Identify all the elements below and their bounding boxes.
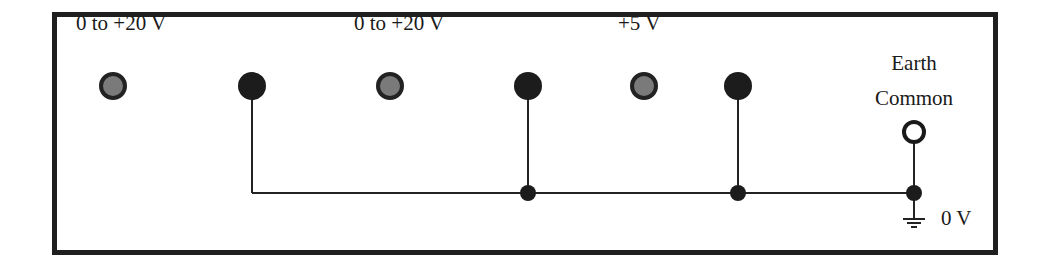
junction-dot-3	[730, 185, 746, 201]
output-2-label: 0 to +20 V	[354, 13, 444, 34]
output-3-label: +5 V	[618, 13, 660, 34]
output-2-return-terminal[interactable]	[514, 72, 542, 100]
earth-label-line2: Common	[875, 88, 953, 109]
output-3-return-terminal[interactable]	[724, 72, 752, 100]
output-1-label: 0 to +20 V	[76, 13, 166, 34]
earth-label-line1: Earth	[891, 53, 936, 74]
junction-dot-earth	[906, 185, 922, 201]
output-1-positive-terminal[interactable]	[101, 74, 125, 98]
earth-common-terminal[interactable]	[904, 122, 924, 142]
output-2-positive-terminal[interactable]	[378, 74, 402, 98]
circuit-wiring	[0, 0, 1048, 266]
output-3-positive-terminal[interactable]	[632, 74, 656, 98]
ground-voltage-label: 0 V	[941, 208, 972, 229]
junction-dot-2	[520, 185, 536, 201]
ground-icon	[903, 219, 925, 227]
output-1-return-terminal[interactable]	[238, 72, 266, 100]
